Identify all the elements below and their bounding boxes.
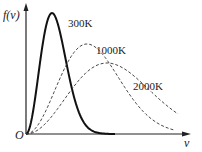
plot-svg [0, 0, 202, 152]
y-axis-label: f(v) [3, 9, 20, 21]
curve-2000k [26, 63, 178, 134]
origin-label: O [15, 129, 24, 141]
curve-300k [26, 13, 115, 134]
y-axis-arrow-icon [24, 3, 29, 11]
maxwell-distribution-diagram: f(v) O v 300K 1000K 2000K [0, 0, 202, 152]
label-1000k: 1000K [96, 45, 126, 56]
x-axis-label: v [184, 137, 189, 149]
label-300k: 300K [68, 18, 92, 29]
label-2000k: 2000K [133, 81, 163, 92]
